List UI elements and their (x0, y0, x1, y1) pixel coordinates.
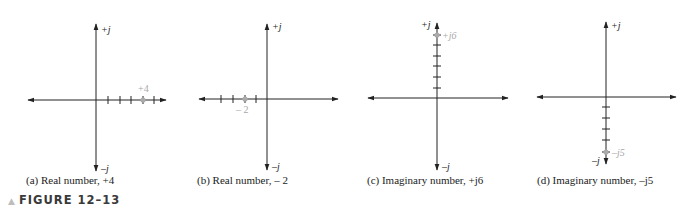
point-label: +j6 (442, 30, 457, 41)
panel-a-real-4: +4 +j –j (28, 24, 166, 174)
figure-label-text: FIGURE 12–13 (19, 193, 120, 207)
panel-b-real-neg2: – 2 +j –j (199, 21, 338, 172)
panel-d-imag-neg-j5: –j5 +j –j (537, 20, 676, 166)
axis-neg-label: –j (271, 161, 280, 172)
axis-pos-label: +j (101, 24, 111, 35)
axis-neg-label: –j (100, 163, 109, 174)
triangle-marker-icon: ▲ (8, 196, 16, 206)
axis-pos-label: +j (421, 19, 431, 30)
point-marker (140, 97, 145, 102)
axis-pos-label: +j (611, 20, 621, 31)
caption-b: (b) Real number, – 2 (197, 174, 288, 186)
figure-label: ▲FIGURE 12–13 (8, 193, 120, 207)
point-label: –j5 (611, 147, 625, 158)
axis-neg-label: –j (441, 161, 450, 172)
caption-c: (c) Imaginary number, +j6 (367, 174, 483, 186)
axis-neg-label: –j (591, 155, 600, 166)
point-label: – 2 (235, 104, 249, 115)
complex-plane-figure: +4 +j –j – 2 +j –j +j6 +j –j (0, 0, 699, 190)
caption-a: (a) Real number, +4 (26, 174, 114, 186)
point-marker (434, 32, 439, 37)
point-marker (242, 96, 247, 101)
caption-d: (d) Imaginary number, –j5 (537, 174, 653, 186)
point-marker (603, 149, 608, 154)
panel-c-imag-j6: +j6 +j –j (368, 19, 508, 172)
point-label: +4 (138, 83, 149, 94)
axis-pos-label: +j (272, 21, 282, 32)
